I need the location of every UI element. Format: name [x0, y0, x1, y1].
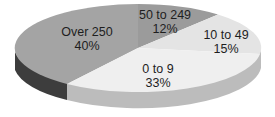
pie-chart [0, 0, 275, 117]
label-10-to-49: 10 to 49 15% [203, 28, 248, 56]
label-0-to-9: 0 to 9 33% [142, 62, 173, 90]
label-over-250: Over 250 40% [61, 25, 112, 53]
label-50-to-249: 50 to 249 12% [139, 8, 191, 36]
